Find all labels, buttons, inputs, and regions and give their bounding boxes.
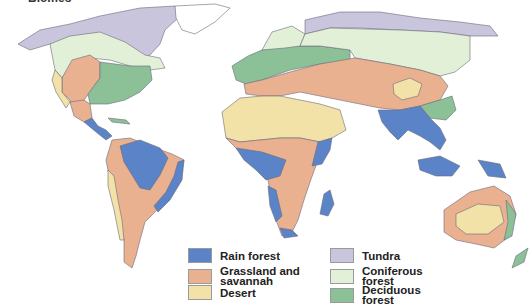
indonesia-rainforest: [418, 156, 460, 176]
central-america-rainforest: [84, 118, 112, 140]
swatch-rain-forest: [188, 248, 212, 263]
new-zealand: [512, 248, 528, 268]
legend-label: Coniferous forest: [362, 266, 432, 286]
swatch-tundra: [330, 248, 354, 263]
scandinavia-coniferous: [262, 26, 305, 50]
legend-item-rain-forest: Rain forest: [188, 248, 280, 263]
legend-item-desert: Desert: [188, 285, 256, 300]
legend-label: Rain forest: [220, 251, 280, 261]
swatch-desert: [188, 285, 212, 300]
legend-item-deciduous: Deciduous forest: [330, 285, 432, 304]
swatch-coniferous: [330, 269, 354, 284]
greenland-ice: [175, 4, 230, 34]
legend-label: Deciduous forest: [362, 285, 432, 304]
legend-item-tundra: Tundra: [330, 248, 400, 263]
legend-label: Grassland and savannah: [220, 266, 310, 286]
legend-item-grassland: Grassland and savannah: [188, 266, 310, 286]
legend-label: Tundra: [362, 251, 400, 261]
legend-item-coniferous: Coniferous forest: [330, 266, 432, 286]
mexico-grassland: [70, 100, 92, 122]
swatch-deciduous: [330, 288, 354, 303]
swatch-grassland: [188, 269, 212, 284]
africa-rainforest-south: [280, 228, 298, 238]
africa-desert: [222, 96, 346, 142]
legend-label: Desert: [220, 288, 256, 298]
new-guinea-rainforest: [478, 160, 506, 178]
caribbean-islands: [108, 118, 130, 124]
madagascar: [320, 190, 334, 216]
